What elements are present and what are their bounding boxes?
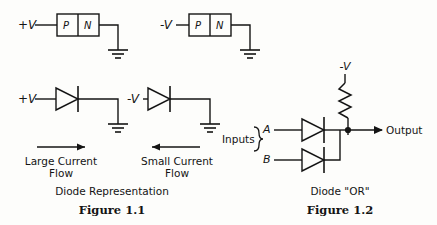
pn-circuit-2-region-n: N — [216, 20, 224, 31]
figure-1-2-caption-title: Diode "OR" — [310, 185, 369, 197]
ground-symbol — [200, 124, 220, 132]
current-flow-note-2-line2: Flow — [165, 167, 189, 179]
current-flow-note-1: Large Current Flow — [25, 144, 97, 180]
diode-circuit-2: -V — [127, 86, 220, 132]
figure-1-1-caption-number: Figure 1.1 — [79, 203, 145, 217]
diode-anode-triangle — [148, 88, 170, 110]
output-arrow-icon — [348, 126, 383, 134]
diode-symbol-a — [302, 117, 324, 143]
inputs-brace — [254, 127, 263, 151]
pn-circuit-1-region-n: N — [84, 20, 92, 31]
figure-sheet: +V P N -V P N — [0, 0, 437, 225]
pn-circuit-1: +V P N — [18, 14, 128, 58]
current-flow-note-1-line2: Flow — [49, 167, 73, 179]
ground-symbol — [108, 50, 128, 58]
current-flow-note-2: Small Current Flow — [141, 144, 213, 180]
resistor-symbol — [339, 74, 351, 135]
input-b-label: B — [263, 153, 271, 166]
figure-1-2-supply-label: -V — [339, 60, 352, 73]
diode-b-anode-triangle — [302, 149, 324, 171]
diode-symbol — [56, 86, 78, 112]
diode-circuit-1-supply-label: +V — [18, 92, 37, 106]
ground-symbol — [108, 124, 128, 132]
pn-circuit-1-region-p: P — [63, 20, 70, 31]
diode-symbol — [148, 86, 170, 112]
pn-circuit-1-output-wire — [99, 25, 118, 50]
diode-b-output-wire — [324, 130, 340, 160]
diode-circuit-1-output-wire — [78, 99, 118, 124]
diode-symbol-b — [302, 147, 324, 173]
current-flow-note-1-line1: Large Current — [25, 155, 97, 167]
diagram-canvas: +V P N -V P N — [0, 0, 437, 225]
pn-circuit-2-region-p: P — [195, 20, 202, 31]
pn-circuit-2-supply-label: -V — [160, 18, 173, 32]
arrow-left-icon — [152, 144, 200, 151]
pn-circuit-2: -V P N — [160, 14, 260, 58]
diode-circuit-2-supply-label: -V — [127, 92, 140, 106]
current-flow-note-2-line1: Small Current — [141, 155, 213, 167]
inputs-label: Inputs — [222, 133, 255, 145]
figure-1-2: -V Inputs A B — [222, 60, 422, 217]
arrow-right-icon — [37, 144, 85, 151]
pn-circuit-2-output-wire — [231, 25, 250, 50]
diode-circuit-2-output-wire — [170, 99, 210, 124]
diode-circuit-1: +V — [18, 86, 128, 132]
figure-1-2-caption-number: Figure 1.2 — [307, 203, 373, 217]
diode-a-anode-triangle — [302, 119, 324, 141]
pn-circuit-1-supply-label: +V — [18, 18, 37, 32]
input-a-label: A — [262, 123, 271, 136]
ground-symbol — [240, 50, 260, 58]
output-label: Output — [386, 124, 422, 136]
figure-1-1-caption-title: Diode Representation — [55, 185, 169, 197]
diode-anode-triangle — [56, 88, 78, 110]
